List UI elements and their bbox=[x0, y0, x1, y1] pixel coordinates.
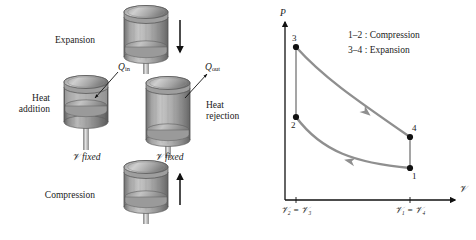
annotation-compression: 1–2 : Compression bbox=[348, 30, 420, 41]
label-q-out: Qout bbox=[205, 62, 220, 73]
q-in-subscript: in bbox=[125, 65, 130, 72]
arrowhead-expansion bbox=[359, 106, 373, 120]
cylinder-compression bbox=[124, 161, 180, 225]
label-heat-rejection-line1: Heat bbox=[206, 100, 224, 111]
cylinder-heat-addition bbox=[64, 72, 118, 150]
label-heat-addition-line2: addition bbox=[2, 104, 50, 115]
label-v-fixed-left: 𝒱 fixed bbox=[50, 152, 122, 163]
curve-expansion-3-4 bbox=[296, 47, 410, 137]
arrow-q-out bbox=[185, 74, 207, 98]
cylinder-expansion bbox=[124, 6, 180, 75]
annotation-expansion: 3–4 : Expansion bbox=[348, 45, 410, 56]
state-label-3: 3 bbox=[292, 33, 297, 43]
label-v-fixed-right: 𝒱 fixed bbox=[133, 152, 205, 163]
q-out-symbol: Q bbox=[205, 62, 212, 72]
tick-label-v2-v3: 𝒱₂ = 𝒱₃ bbox=[271, 205, 321, 215]
state-label-1: 1 bbox=[412, 171, 417, 181]
state-label-2: 2 bbox=[291, 120, 296, 130]
state-point-3 bbox=[293, 44, 299, 50]
tick-label-v1-v4: 𝒱₁ = 𝒱₄ bbox=[385, 205, 435, 215]
q-out-subscript: out bbox=[212, 65, 220, 72]
arrow-q-in bbox=[95, 72, 118, 98]
cylinder-heat-rejection bbox=[146, 74, 207, 158]
label-heat-addition-line1: Heat bbox=[2, 93, 50, 104]
arrowhead-compression bbox=[343, 156, 356, 167]
label-heat-rejection-line2: rejection bbox=[206, 111, 239, 122]
label-q-in: Qin bbox=[118, 62, 130, 73]
state-point-4 bbox=[407, 134, 413, 140]
label-expansion: Expansion bbox=[43, 35, 95, 46]
q-in-symbol: Q bbox=[118, 62, 125, 72]
label-compression: Compression bbox=[35, 190, 95, 201]
axis-label-pressure: P bbox=[280, 8, 286, 19]
state-label-4: 4 bbox=[412, 123, 417, 133]
axis-label-volume: 𝒱 bbox=[459, 184, 467, 195]
curve-compression-1-2 bbox=[296, 117, 410, 168]
figure-root: Expansion Heat addition Qin 𝒱 fixed Qout… bbox=[0, 0, 476, 240]
